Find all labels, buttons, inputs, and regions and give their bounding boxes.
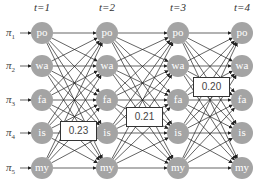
state-node-fa-t1: fa (31, 89, 53, 111)
state-node-is-t1: is (31, 122, 53, 144)
state-node-wa-t1: wa (31, 55, 53, 77)
prob-label-0.21: 0.21 (126, 107, 163, 127)
time-label-4: t=4 (234, 1, 250, 13)
time-label-1: t=1 (34, 1, 50, 13)
state-node-fa-t2: fa (96, 89, 118, 111)
state-node-my-t1: my (31, 157, 53, 179)
time-label-3: t=3 (170, 1, 186, 13)
state-node-po-t4: po (231, 22, 253, 44)
state-node-wa-t4: wa (231, 55, 253, 77)
state-node-po-t2: po (96, 22, 118, 44)
state-node-po-t1: po (31, 22, 53, 44)
prior-1: π1 (6, 26, 15, 41)
prob-label-0.23: 0.23 (60, 121, 97, 141)
prior-3: π3 (6, 93, 15, 108)
state-node-is-t4: is (231, 122, 253, 144)
state-node-po-t3: po (167, 22, 189, 44)
state-node-is-t2: is (96, 122, 118, 144)
prior-4: π4 (6, 126, 15, 141)
state-node-wa-t2: wa (96, 55, 118, 77)
state-node-wa-t3: wa (167, 55, 189, 77)
state-node-fa-t4: fa (231, 89, 253, 111)
state-node-fa-t3: fa (167, 89, 189, 111)
prior-5: π5 (6, 161, 15, 176)
state-node-my-t3: my (167, 157, 189, 179)
trellis-diagram: t=1 t=2 t=3 t=4 π1 π2 π3 π4 π5 powafaism… (0, 0, 263, 189)
state-node-my-t4: my (231, 157, 253, 179)
prob-label-0.20: 0.20 (193, 77, 230, 97)
state-node-is-t3: is (167, 122, 189, 144)
state-node-my-t2: my (96, 157, 118, 179)
time-label-2: t=2 (99, 1, 115, 13)
prior-2: π2 (6, 59, 15, 74)
